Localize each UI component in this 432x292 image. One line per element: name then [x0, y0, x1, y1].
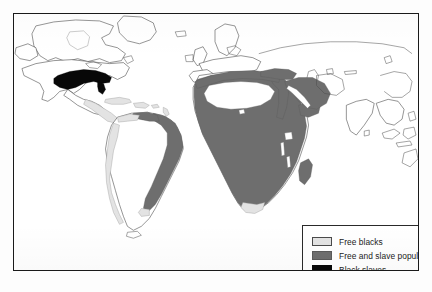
- swatch-black-slaves: [312, 265, 332, 271]
- map-legend: Free blacks Free and slave population Bl…: [302, 225, 419, 271]
- legend-item-black-slaves: Black slaves: [312, 263, 419, 271]
- legend-item-free-blacks: Free blacks: [312, 235, 419, 248]
- legend-label-black-slaves: Black slaves: [339, 265, 386, 272]
- legend-item-free-and-slave: Free and slave population: [312, 249, 419, 262]
- world-map-figure: .coast { fill:#ffffff; stroke:#3d3d3d; s…: [0, 0, 432, 292]
- legend-label-free-and-slave: Free and slave population: [339, 251, 419, 261]
- lake-victoria: [285, 132, 293, 140]
- map-frame: .coast { fill:#ffffff; stroke:#3d3d3d; s…: [13, 13, 419, 271]
- lake-chad: [239, 109, 245, 114]
- swatch-free-and-slave: [312, 251, 332, 260]
- legend-label-free-blacks: Free blacks: [339, 237, 383, 247]
- swatch-free-blacks: [312, 237, 332, 246]
